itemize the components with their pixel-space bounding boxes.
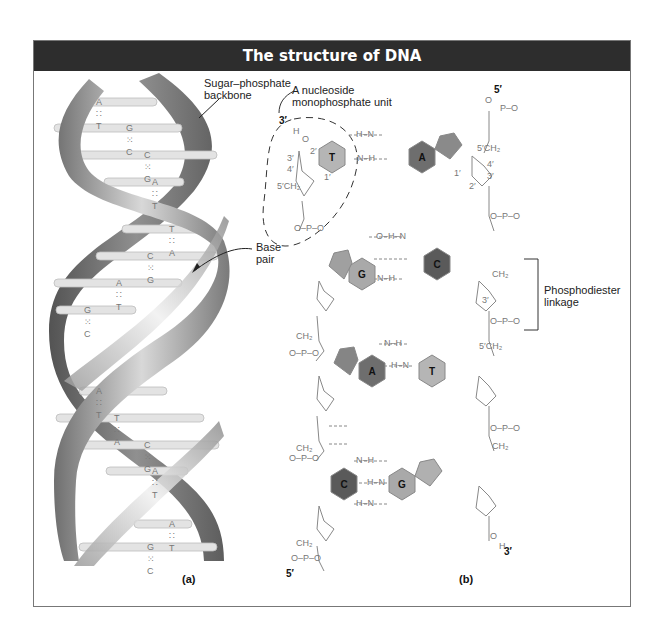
left-bottom-end: 5′ [286, 568, 295, 579]
svg-text:T: T [429, 366, 435, 377]
svg-text:CH₂: CH₂ [296, 443, 313, 453]
chemical-structure: T A G C A T C G OH 3′4′2′1′ 5′CH₂ O–P–O … [34, 41, 632, 608]
svg-text:O: O [302, 134, 309, 144]
svg-text:O–H–N: O–H–N [376, 231, 406, 241]
svg-text:CH₂: CH₂ [492, 441, 509, 451]
svg-text:3′: 3′ [287, 153, 294, 163]
svg-text:1′: 1′ [324, 172, 331, 182]
svg-text:H–N: H–N [367, 477, 385, 487]
left-top-end: 3′ [279, 115, 288, 126]
svg-text:3′: 3′ [482, 295, 489, 305]
svg-text:C: C [433, 259, 440, 270]
phosphodiester-label-1: Phosphodiester [544, 284, 620, 296]
svg-text:O–P–O: O–P–O [289, 453, 319, 463]
svg-text:O–P–O: O–P–O [490, 423, 520, 433]
right-top-end: 5′ [494, 84, 503, 95]
svg-text:O–P–O: O–P–O [490, 316, 520, 326]
svg-text:O–P–O: O–P–O [294, 223, 324, 233]
svg-text:3′: 3′ [487, 171, 494, 181]
svg-text:O: O [490, 531, 497, 541]
svg-text:O–P–O: O–P–O [490, 211, 520, 221]
svg-text:N–H: N–H [356, 455, 374, 465]
svg-text:N–H: N–H [377, 273, 395, 283]
svg-text:P–O: P–O [500, 103, 518, 113]
nucleoside-label-2: monophosphate unit [292, 96, 392, 108]
svg-text:O–P–O: O–P–O [291, 553, 321, 563]
svg-text:CH₂: CH₂ [296, 538, 313, 548]
svg-text:C: C [340, 479, 347, 490]
svg-text:G: G [358, 269, 366, 280]
svg-text:4′: 4′ [287, 164, 294, 174]
svg-text:N–H: N–H [384, 338, 402, 348]
svg-text:CH₂: CH₂ [296, 331, 313, 341]
panel-b-label: (b) [459, 573, 473, 585]
svg-text:CH₂: CH₂ [492, 269, 509, 279]
svg-text:2′: 2′ [469, 181, 476, 191]
svg-text:5′CH₂: 5′CH₂ [479, 341, 503, 351]
phosphodiester-label-2: linkage [544, 296, 579, 308]
svg-text:O: O [485, 95, 492, 105]
svg-text:2′: 2′ [310, 146, 317, 156]
svg-text:H–N: H–N [391, 360, 409, 370]
right-bottom-end: 3′ [504, 546, 513, 557]
svg-text:A: A [418, 152, 425, 163]
svg-text:H: H [293, 126, 300, 136]
svg-text:5′CH₂: 5′CH₂ [277, 181, 301, 191]
figure-frame: The structure of DNA [33, 40, 631, 607]
base-T-letter: T [329, 152, 335, 163]
svg-text:H–N: H–N [356, 129, 374, 139]
svg-text:4′: 4′ [487, 159, 494, 169]
svg-text:G: G [398, 479, 406, 490]
svg-text:N–H: N–H [357, 153, 375, 163]
nucleoside-label-1: A nucleoside [292, 84, 354, 96]
svg-text:A: A [368, 366, 375, 377]
svg-text:5′CH₂: 5′CH₂ [477, 143, 501, 153]
svg-text:1′: 1′ [454, 168, 461, 178]
svg-text:H–N: H–N [356, 498, 374, 508]
svg-text:O–P–O: O–P–O [289, 348, 319, 358]
